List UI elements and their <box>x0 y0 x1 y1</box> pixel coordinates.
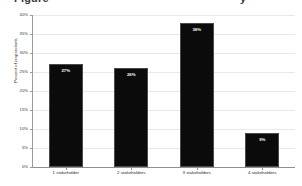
y-axis-tick-label: 5% <box>22 146 28 150</box>
gridline <box>33 53 295 54</box>
cropped-title-row: Figure y <box>0 0 302 6</box>
x-axis-category-label: 1 stakeholder <box>33 171 99 175</box>
bar-chart-figure: Figure y Percent of respondents 0%5%10%1… <box>0 0 302 186</box>
y-axis-tick-group: 40% <box>0 15 33 16</box>
y-axis-tick-group: 10% <box>0 129 33 130</box>
y-axis-tick-label: 35% <box>20 32 28 36</box>
bar-value-label: 26% <box>115 73 147 77</box>
cropped-title-right: y <box>240 0 246 4</box>
gridline <box>33 15 295 16</box>
cropped-title-left: Figure <box>14 0 49 4</box>
bar[interactable]: 26% <box>114 68 148 167</box>
y-axis-tick-mark <box>30 167 33 168</box>
y-axis-tick-label: 20% <box>20 89 28 93</box>
y-axis-tick-group: 35% <box>0 34 33 35</box>
y-axis-tick-label: 25% <box>20 70 28 74</box>
x-axis-category-label: 4 stakeholders <box>230 171 296 175</box>
y-axis-tick-label: 10% <box>20 127 28 131</box>
gridline <box>33 34 295 35</box>
bar[interactable]: 38% <box>180 23 214 167</box>
y-axis-tick-group: 25% <box>0 72 33 73</box>
y-axis-tick-group: 20% <box>0 91 33 92</box>
y-axis-tick-label: 30% <box>20 51 28 55</box>
bar[interactable]: 27% <box>49 64 83 167</box>
bar[interactable]: 9% <box>245 133 279 167</box>
bar-value-label: 9% <box>246 138 278 142</box>
y-axis-tick-label: 40% <box>20 13 28 17</box>
y-axis-tick-label: 15% <box>20 108 28 112</box>
y-axis-tick-group: 30% <box>0 53 33 54</box>
bar-value-label: 27% <box>50 69 82 73</box>
x-axis-category-label: 2 stakeholders <box>99 171 165 175</box>
x-axis-line <box>33 167 295 168</box>
bar-value-label: 38% <box>181 28 213 32</box>
y-axis-tick-label: 0% <box>22 165 28 169</box>
y-axis-tick-group: 5% <box>0 148 33 149</box>
y-axis-label: Percent of respondents <box>13 16 18 106</box>
y-axis-tick-group: 0% <box>0 167 33 168</box>
y-axis-tick-group: 15% <box>0 110 33 111</box>
x-axis-category-label: 3 stakeholders <box>164 171 230 175</box>
